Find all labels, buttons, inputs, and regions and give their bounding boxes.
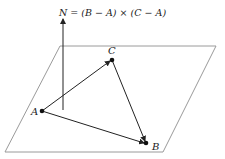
edge-a-to-c [42, 61, 110, 111]
point-a [40, 109, 45, 114]
edge-a-to-b [42, 111, 144, 143]
point-c [110, 58, 115, 63]
plane [5, 46, 216, 152]
label-c: C [108, 45, 116, 56]
normal-formula: N = (B − A) × (C − A) [58, 7, 166, 18]
label-b: B [151, 141, 159, 152]
label-a: A [30, 106, 38, 117]
edge-c-to-b [112, 60, 145, 141]
triangle-normal-diagram: A B C N = (B − A) × (C − A) [0, 0, 225, 159]
point-b [144, 141, 149, 146]
